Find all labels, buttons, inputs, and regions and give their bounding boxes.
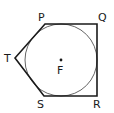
label-t: T (3, 52, 11, 65)
label-f: F (57, 64, 63, 77)
label-s: S (37, 98, 44, 111)
diagram-canvas: P Q T F S R (0, 0, 114, 113)
label-p: P (38, 11, 45, 24)
center-point-f (60, 59, 63, 62)
label-r: R (93, 98, 101, 111)
geometry-diagram: P Q T F S R (0, 0, 114, 113)
label-q: Q (98, 11, 107, 24)
pentagon-pqrst (15, 24, 97, 96)
